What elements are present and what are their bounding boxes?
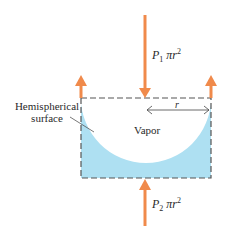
surface-label: Hemispherical surface: [12, 100, 82, 124]
vapor-label: Vapor: [134, 124, 160, 136]
arrow-up-right-icon: [205, 75, 217, 86]
radius-label: r: [175, 99, 179, 110]
arrow-up-bottom-icon: [139, 179, 151, 190]
bottom-force-label: P2 πr2: [152, 196, 181, 213]
arrow-down-icon: [139, 88, 151, 98]
top-force-label: P1 πr2: [152, 47, 181, 64]
arrow-up-left-icon: [75, 75, 87, 86]
